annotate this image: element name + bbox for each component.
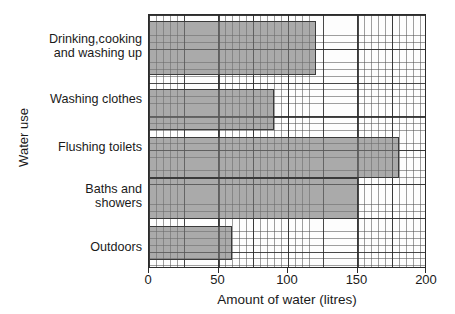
water-use-bar-chart: Water use Drinking,cooking and washing u… <box>0 0 455 314</box>
category-label-outdoors: Outdoors <box>26 240 142 254</box>
category-label-flushing-toilets: Flushing toilets <box>26 140 142 154</box>
x-tick-label-50: 50 <box>198 272 238 287</box>
bar-flushing-toilets <box>149 137 399 178</box>
category-label-baths-showers: Baths and showers <box>26 182 142 210</box>
category-label-washing-clothes: Washing clothes <box>26 92 142 106</box>
x-tick-label-100: 100 <box>267 272 307 287</box>
bar-washing-clothes <box>149 89 274 130</box>
x-tick-label-200: 200 <box>406 272 446 287</box>
bar-drinking-cooking <box>149 21 316 75</box>
bar-outdoors <box>149 226 232 260</box>
x-tick-label-150: 150 <box>337 272 377 287</box>
category-label-line1: Drinking,cooking <box>26 32 142 46</box>
category-label-line1: Flushing toilets <box>26 140 142 154</box>
x-axis-title: Amount of water (litres) <box>148 292 426 307</box>
category-label-drinking-cooking: Drinking,cooking and washing up <box>26 32 142 60</box>
category-label-line2: showers <box>26 196 142 210</box>
plot-area <box>148 14 426 268</box>
bar-baths-showers <box>149 178 358 219</box>
category-label-line2: and washing up <box>26 46 142 60</box>
x-tick-label-0: 0 <box>128 272 168 287</box>
category-label-line1: Washing clothes <box>26 92 142 106</box>
category-label-line1: Outdoors <box>26 240 142 254</box>
category-label-line1: Baths and <box>26 182 142 196</box>
x-axis-tick-labels: 050100150200 <box>148 272 426 290</box>
category-label-column: Drinking,cooking and washing up Washing … <box>26 14 142 268</box>
